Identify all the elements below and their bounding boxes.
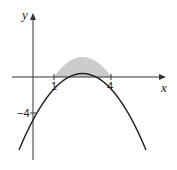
parabola-chart: y x 1 4 −4 bbox=[0, 0, 177, 170]
tick-label-neg4: −4 bbox=[17, 107, 30, 119]
tick-label-1: 1 bbox=[51, 80, 57, 92]
tick-label-4: 4 bbox=[107, 80, 113, 92]
y-axis-label: y bbox=[20, 7, 28, 22]
parabola-curve bbox=[19, 74, 146, 151]
y-axis-arrow-icon bbox=[30, 13, 36, 20]
x-axis-label: x bbox=[160, 80, 167, 95]
